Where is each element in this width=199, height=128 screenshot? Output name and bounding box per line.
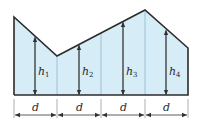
trapezoid-diagram: h1 h2 h3 h4 d d d d (0, 0, 199, 128)
d-label-2: d (76, 101, 83, 114)
d-label-1: d (32, 101, 39, 114)
d-label-4: d (163, 101, 170, 114)
d-label-3: d (120, 101, 127, 114)
